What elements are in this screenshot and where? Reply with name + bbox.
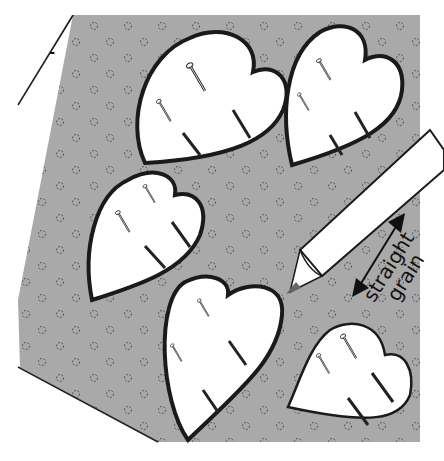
- fabric-illustration: [0, 0, 444, 461]
